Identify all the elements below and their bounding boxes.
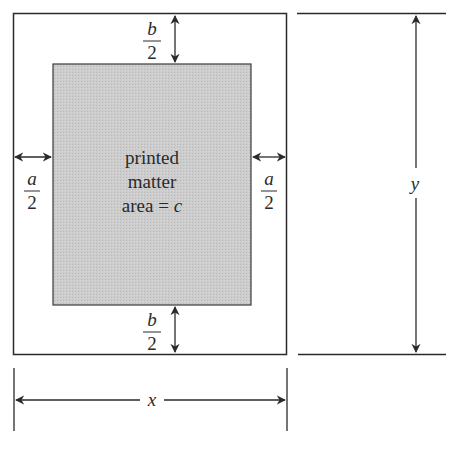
- printed-label-line1: printed: [125, 147, 179, 168]
- top-margin-numerator: b: [147, 18, 157, 39]
- left-margin-dimension: a 2: [15, 157, 51, 213]
- bottom-margin-dimension: b 2: [143, 307, 175, 354]
- right-margin-denominator: 2: [264, 192, 274, 213]
- height-label: y: [409, 173, 420, 194]
- width-dimension: x: [14, 368, 287, 431]
- top-margin-denominator: 2: [147, 42, 157, 63]
- printed-label-line2: matter: [128, 171, 177, 192]
- bottom-margin-numerator: b: [147, 309, 157, 330]
- left-margin-denominator: 2: [27, 192, 37, 213]
- printed-label-line3: area = c: [122, 195, 183, 216]
- height-dimension: y: [297, 14, 446, 355]
- right-margin-dimension: a 2: [253, 157, 285, 213]
- left-margin-numerator: a: [27, 168, 37, 189]
- width-label: x: [147, 389, 157, 410]
- poster-diagram: printed matter area = c b 2 b 2 a 2 a 2 …: [0, 0, 455, 449]
- right-margin-numerator: a: [264, 168, 274, 189]
- bottom-margin-denominator: 2: [147, 333, 157, 354]
- top-margin-dimension: b 2: [143, 16, 175, 63]
